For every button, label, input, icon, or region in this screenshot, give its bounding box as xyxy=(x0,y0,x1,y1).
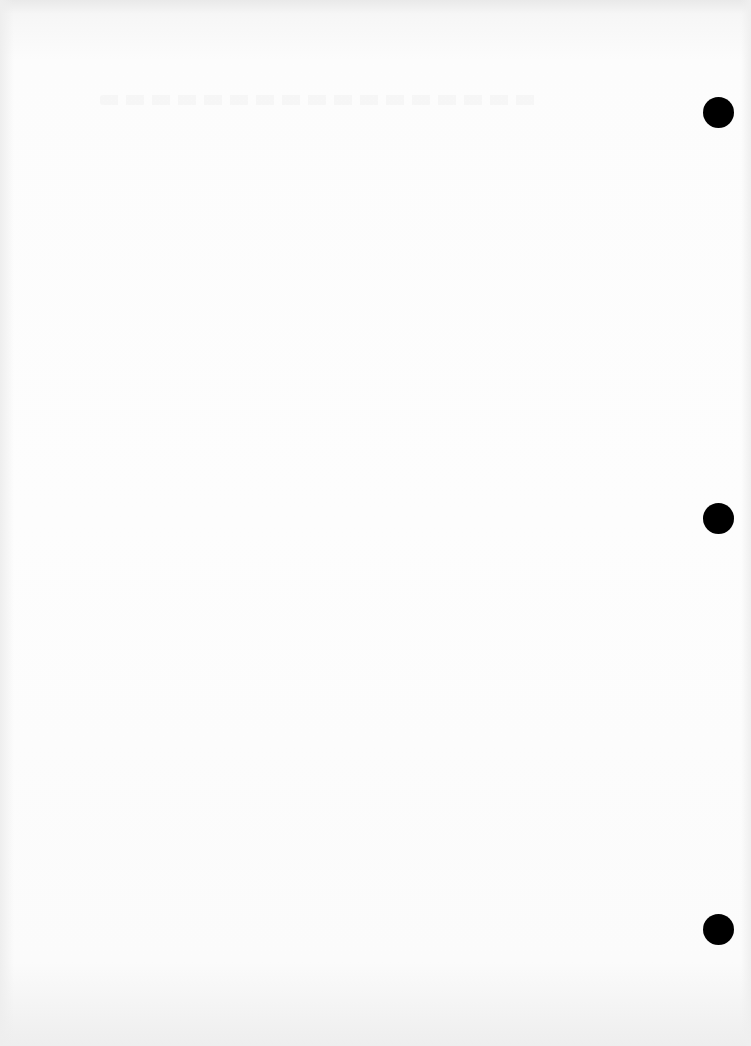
punch-hole-top xyxy=(703,97,734,128)
faint-bleed-through-text xyxy=(100,95,540,105)
punch-hole-bottom xyxy=(703,914,734,945)
scan-edge-shadow-left xyxy=(0,0,14,1046)
punch-hole-middle xyxy=(703,503,734,534)
scan-edge-shadow-right xyxy=(741,0,751,1046)
blank-paper-page xyxy=(0,0,751,1046)
